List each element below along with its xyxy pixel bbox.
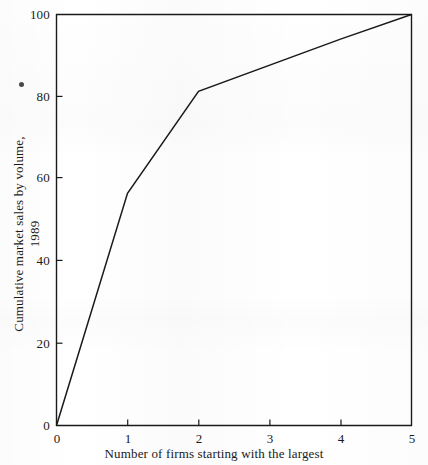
axis-frame xyxy=(56,14,412,426)
x-axis-title: Number of firms starting with the larges… xyxy=(0,446,428,462)
x-axis-ticks xyxy=(128,420,341,426)
y-tick-label-80: 80 xyxy=(6,90,50,103)
scan-speck-icon xyxy=(19,82,24,87)
chart-plot-area xyxy=(0,0,428,465)
x-tick-label-5: 5 xyxy=(401,432,423,445)
y-axis-ticks xyxy=(57,96,63,343)
x-tick-label-1: 1 xyxy=(117,432,139,445)
x-tick-label-4: 4 xyxy=(330,432,352,445)
y-axis-title: Cumulative market sales by volume, 1989 xyxy=(11,124,43,344)
x-tick-label-0: 0 xyxy=(46,432,68,445)
data-series-line xyxy=(57,15,412,426)
x-tick-label-2: 2 xyxy=(188,432,210,445)
y-tick-label-0: 0 xyxy=(6,419,50,432)
chart-figure: 100 80 60 40 20 0 0 1 2 3 4 5 Number of … xyxy=(0,0,428,465)
x-tick-label-3: 3 xyxy=(259,432,281,445)
y-tick-label-100: 100 xyxy=(6,8,50,21)
